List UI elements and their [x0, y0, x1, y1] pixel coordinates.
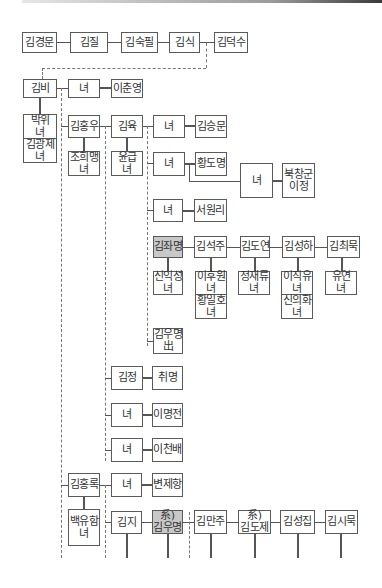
- person-node[interactable]: 김정: [111, 366, 143, 390]
- adopted-person-node[interactable]: 系)김도제: [238, 510, 271, 534]
- spouse-node[interactable]: 북창군이정: [282, 163, 315, 198]
- top-border-bar: [22, 0, 382, 3]
- person-node[interactable]: 김만주: [194, 510, 227, 534]
- spouse-node[interactable]: 이직유녀: [281, 271, 313, 295]
- person-node[interactable]: 김홍록: [68, 473, 100, 497]
- spouse-node[interactable]: 이춘영: [111, 79, 143, 98]
- person-node[interactable]: 김비: [23, 79, 57, 98]
- person-node[interactable]: 김도연: [240, 236, 270, 258]
- spouse-node[interactable]: 백유함녀: [68, 509, 100, 546]
- daughter-node[interactable]: 녀: [240, 163, 273, 198]
- spouse-node[interactable]: 서원리: [194, 199, 227, 222]
- daughter-node[interactable]: 녀: [111, 403, 143, 427]
- daughter-node[interactable]: 녀: [153, 199, 183, 222]
- person-node[interactable]: 김성하: [282, 236, 315, 258]
- highlighted-person-node[interactable]: 김좌명: [153, 236, 183, 258]
- person-node[interactable]: 김덕수: [214, 32, 248, 53]
- person-node[interactable]: 김성집: [280, 510, 315, 534]
- spouse-node[interactable]: 신의화녀: [281, 294, 313, 319]
- person-node[interactable]: 김최묵: [327, 236, 360, 258]
- spouse-node[interactable]: 정재류녀: [238, 271, 270, 295]
- person-node[interactable]: 김석주: [194, 236, 227, 258]
- person-node[interactable]: 김우명出: [153, 328, 183, 354]
- person-node[interactable]: 김홍우: [68, 115, 100, 138]
- person-node[interactable]: 김시묵: [325, 510, 358, 534]
- spouse-node[interactable]: 이후원녀: [195, 271, 227, 295]
- spouse-node[interactable]: 김승문: [195, 115, 227, 138]
- person-node[interactable]: 김지: [111, 511, 142, 534]
- daughter-node[interactable]: 녀: [153, 152, 185, 176]
- daughter-node[interactable]: 녀: [68, 79, 100, 98]
- spouse-node[interactable]: 이천배: [152, 438, 183, 462]
- spouse-node[interactable]: 취명: [152, 366, 183, 390]
- spouse-node[interactable]: 이명전: [152, 403, 183, 427]
- spouse-node[interactable]: 변제항: [152, 473, 183, 497]
- spouse-node[interactable]: 김광제녀: [23, 138, 57, 163]
- highlighted-adopted-person-node[interactable]: 系)김우명: [152, 510, 183, 534]
- daughter-node[interactable]: 녀: [111, 438, 143, 462]
- person-node[interactable]: 김숙필: [121, 32, 158, 53]
- spouse-node[interactable]: 조희맹녀: [68, 151, 100, 176]
- person-node[interactable]: 김육: [111, 115, 143, 138]
- spouse-node[interactable]: 박위녀: [23, 114, 57, 139]
- person-node[interactable]: 김질: [70, 32, 108, 53]
- spouse-node[interactable]: 신익성녀: [153, 271, 183, 295]
- spouse-node[interactable]: 황일호녀: [195, 294, 227, 319]
- spouse-node[interactable]: 윤급녀: [111, 151, 143, 176]
- daughter-node[interactable]: 녀: [153, 115, 185, 138]
- person-node[interactable]: 김식: [169, 32, 200, 53]
- daughter-node[interactable]: 녀: [111, 473, 142, 497]
- person-node[interactable]: 김경문: [22, 32, 57, 53]
- spouse-node[interactable]: 황도명: [195, 152, 227, 176]
- spouse-node[interactable]: 유연녀: [325, 271, 357, 295]
